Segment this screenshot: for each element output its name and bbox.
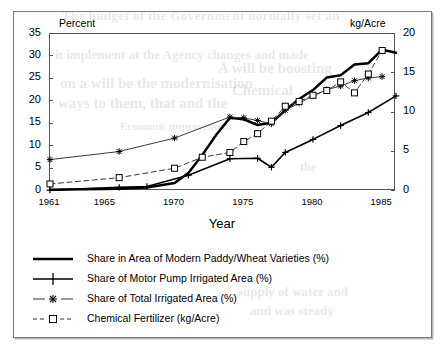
- x-tick-label: 1970: [151, 196, 197, 207]
- series-marker-2: [171, 135, 177, 141]
- series-marker-3: [379, 47, 385, 53]
- left-axis-unit-label: Percent: [59, 17, 95, 29]
- x-tick-label: 1985: [358, 196, 404, 207]
- y-tick-label-right: 0: [403, 183, 429, 195]
- y-tick-label-left: 35: [15, 26, 41, 38]
- legend-label: Chemical Fertilizer (kg/Acre): [87, 312, 219, 324]
- chart-page: The budget of the Government normally se…: [0, 0, 444, 349]
- series-line-2: [50, 77, 382, 160]
- series-marker-3: [296, 99, 302, 105]
- series-marker-3: [338, 79, 344, 85]
- legend-item: Share of Total Irrigated Area (%): [31, 289, 361, 309]
- right-axis-unit-label: kg/Acre: [350, 17, 386, 29]
- series-marker-3: [282, 103, 288, 109]
- series-marker-2: [351, 77, 357, 83]
- series-marker-1: [185, 172, 191, 178]
- series-marker-3: [116, 175, 122, 181]
- y-tick-label-left: 0: [15, 183, 41, 195]
- y-tick-label-right: 15: [403, 65, 429, 77]
- plot-area: [49, 33, 395, 190]
- series-marker-2: [241, 115, 247, 121]
- series-marker-2: [47, 156, 53, 162]
- series-marker-3: [241, 139, 247, 145]
- series-marker-3: [268, 118, 274, 124]
- series-marker-3: [365, 71, 371, 77]
- x-tick-label: 1975: [220, 196, 266, 207]
- series-marker-2: [379, 73, 385, 79]
- y-tick-label-left: 15: [15, 115, 41, 127]
- y-tick-label-right: 10: [403, 104, 429, 116]
- legend-item: Share in Area of Modern Paddy/Wheat Vari…: [31, 249, 361, 269]
- series-marker-3: [172, 165, 178, 171]
- y-tick-label-left: 20: [15, 93, 41, 105]
- legend-key-asterisk-icon: [31, 289, 75, 309]
- x-tick-label: 1980: [289, 196, 335, 207]
- series-marker-3: [47, 181, 53, 187]
- legend-key-plus-icon: [31, 269, 75, 289]
- series-marker-3: [310, 92, 316, 98]
- y-tick-label-right: 20: [403, 26, 429, 38]
- x-tick-label: 1965: [81, 196, 127, 207]
- legend-item: Share of Motor Pump Irrigated Area (%): [31, 269, 361, 289]
- legend-label: Share in Area of Modern Paddy/Wheat Vari…: [87, 252, 329, 264]
- series-marker-3: [351, 90, 357, 96]
- series-marker-3: [199, 154, 205, 160]
- series-canvas: [50, 34, 396, 191]
- series-marker-3: [324, 88, 330, 94]
- y-tick-label-left: 30: [15, 48, 41, 60]
- y-tick-label-left: 10: [15, 138, 41, 150]
- series-marker-1: [337, 122, 343, 128]
- chart-legend: Share in Area of Modern Paddy/Wheat Vari…: [31, 249, 361, 329]
- series-marker-2: [116, 148, 122, 154]
- series-marker-1: [227, 156, 233, 162]
- legend-label: Share of Motor Pump Irrigated Area (%): [87, 272, 272, 284]
- series-marker-2: [227, 114, 233, 120]
- legend-item: Chemical Fertilizer (kg/Acre): [31, 309, 361, 329]
- legend-key-square-icon: [31, 309, 75, 329]
- series-marker-3: [227, 150, 233, 156]
- x-axis-title: Year: [122, 216, 322, 231]
- y-tick-label-right: 5: [403, 143, 429, 155]
- series-marker-3: [255, 131, 261, 137]
- x-tick-label: 1961: [26, 196, 72, 207]
- legend-label: Share of Total Irrigated Area (%): [87, 292, 237, 304]
- y-tick-label-left: 5: [15, 160, 41, 172]
- series-line-1: [50, 96, 396, 190]
- y-tick-label-left: 25: [15, 70, 41, 82]
- legend-key-solid-thick-icon: [31, 249, 75, 269]
- series-marker-2: [254, 117, 260, 123]
- series-marker-1: [310, 136, 316, 142]
